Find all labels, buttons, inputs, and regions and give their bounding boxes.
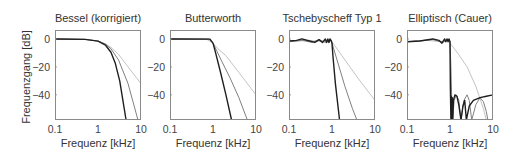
x-tick-label: 1: [95, 123, 101, 135]
y-tick-label: 0: [278, 33, 284, 45]
x-tick-label: 0.1: [400, 123, 415, 135]
series-line-order-mid: [407, 39, 488, 120]
x-tick-label: 10: [250, 123, 262, 135]
panel-title: Tschebyscheff Typ 1: [282, 12, 381, 24]
series-line-order-mid: [170, 39, 247, 120]
panel-butterworth: Butterworth 0.11100−20−40 Frequenz [kHz]: [147, 12, 262, 149]
plot-area: 0.11100−20−40: [384, 31, 499, 136]
series-line-order-low: [170, 39, 256, 95]
series-line-order-mid: [55, 39, 138, 120]
series-line-order-mid: [289, 40, 357, 120]
series-line-order-high: [170, 39, 232, 120]
x-tick-label: 0.1: [282, 123, 297, 135]
x-tick-label: 1: [329, 123, 335, 135]
x-tick-label: 0.1: [163, 123, 178, 135]
plot-area: 0.11100−20−40: [266, 31, 381, 136]
y-tick-label: 0: [396, 33, 402, 45]
series-line-order-high: [289, 39, 340, 120]
series-line-order-low: [407, 40, 486, 120]
y-tick-label: −40: [32, 89, 50, 101]
y-tick-label: −20: [384, 61, 402, 73]
x-tick-label: 10: [369, 123, 381, 135]
y-tick-label: −40: [384, 89, 402, 101]
panel-chebyshev-type1: Tschebyscheff Typ 1 0.11100−20−40 Freque…: [266, 12, 381, 149]
panel-title: Elliptisch (Cauer): [408, 12, 492, 24]
x-tick-label: 10: [487, 123, 499, 135]
x-tick-label: 10: [135, 123, 147, 135]
y-tick-label: −20: [32, 61, 50, 73]
y-tick-label: −40: [147, 89, 165, 101]
y-tick-label: 0: [159, 33, 165, 45]
y-tick-label: −20: [147, 61, 165, 73]
x-tick-label: 1: [447, 123, 453, 135]
x-axis-label: Frequenz [kHz]: [61, 137, 136, 149]
plot-area: 0.11100−20−40: [147, 31, 262, 136]
y-axis-label: Frequenzgang [dB]: [20, 30, 32, 124]
plot-area: 0.11100−20−40: [32, 31, 147, 136]
y-tick-label: 0: [44, 33, 50, 45]
axes-frame: [56, 31, 141, 120]
panel-title: Bessel (korrigiert): [55, 12, 141, 24]
y-tick-label: −40: [266, 89, 284, 101]
panel-elliptic: Elliptisch (Cauer) 0.11100−20−40 Frequen…: [384, 12, 499, 149]
x-tick-label: 0.1: [48, 123, 63, 135]
x-tick-label: 1: [210, 123, 216, 135]
x-axis-label: Frequenz [kHz]: [413, 137, 488, 149]
y-tick-label: −20: [266, 61, 284, 73]
series-line-order-high: [407, 39, 493, 120]
x-axis-label: Frequenz [kHz]: [295, 137, 370, 149]
x-axis-label: Frequenz [kHz]: [176, 137, 251, 149]
filter-comparison-figure: Frequenzgang [dB] Bessel (korrigiert) 0.…: [0, 0, 517, 155]
panel-bessel: Bessel (korrigiert) 0.11100−20−40 Freque…: [32, 12, 147, 149]
series-line-order-low: [55, 39, 141, 84]
panel-title: Butterworth: [185, 12, 241, 24]
